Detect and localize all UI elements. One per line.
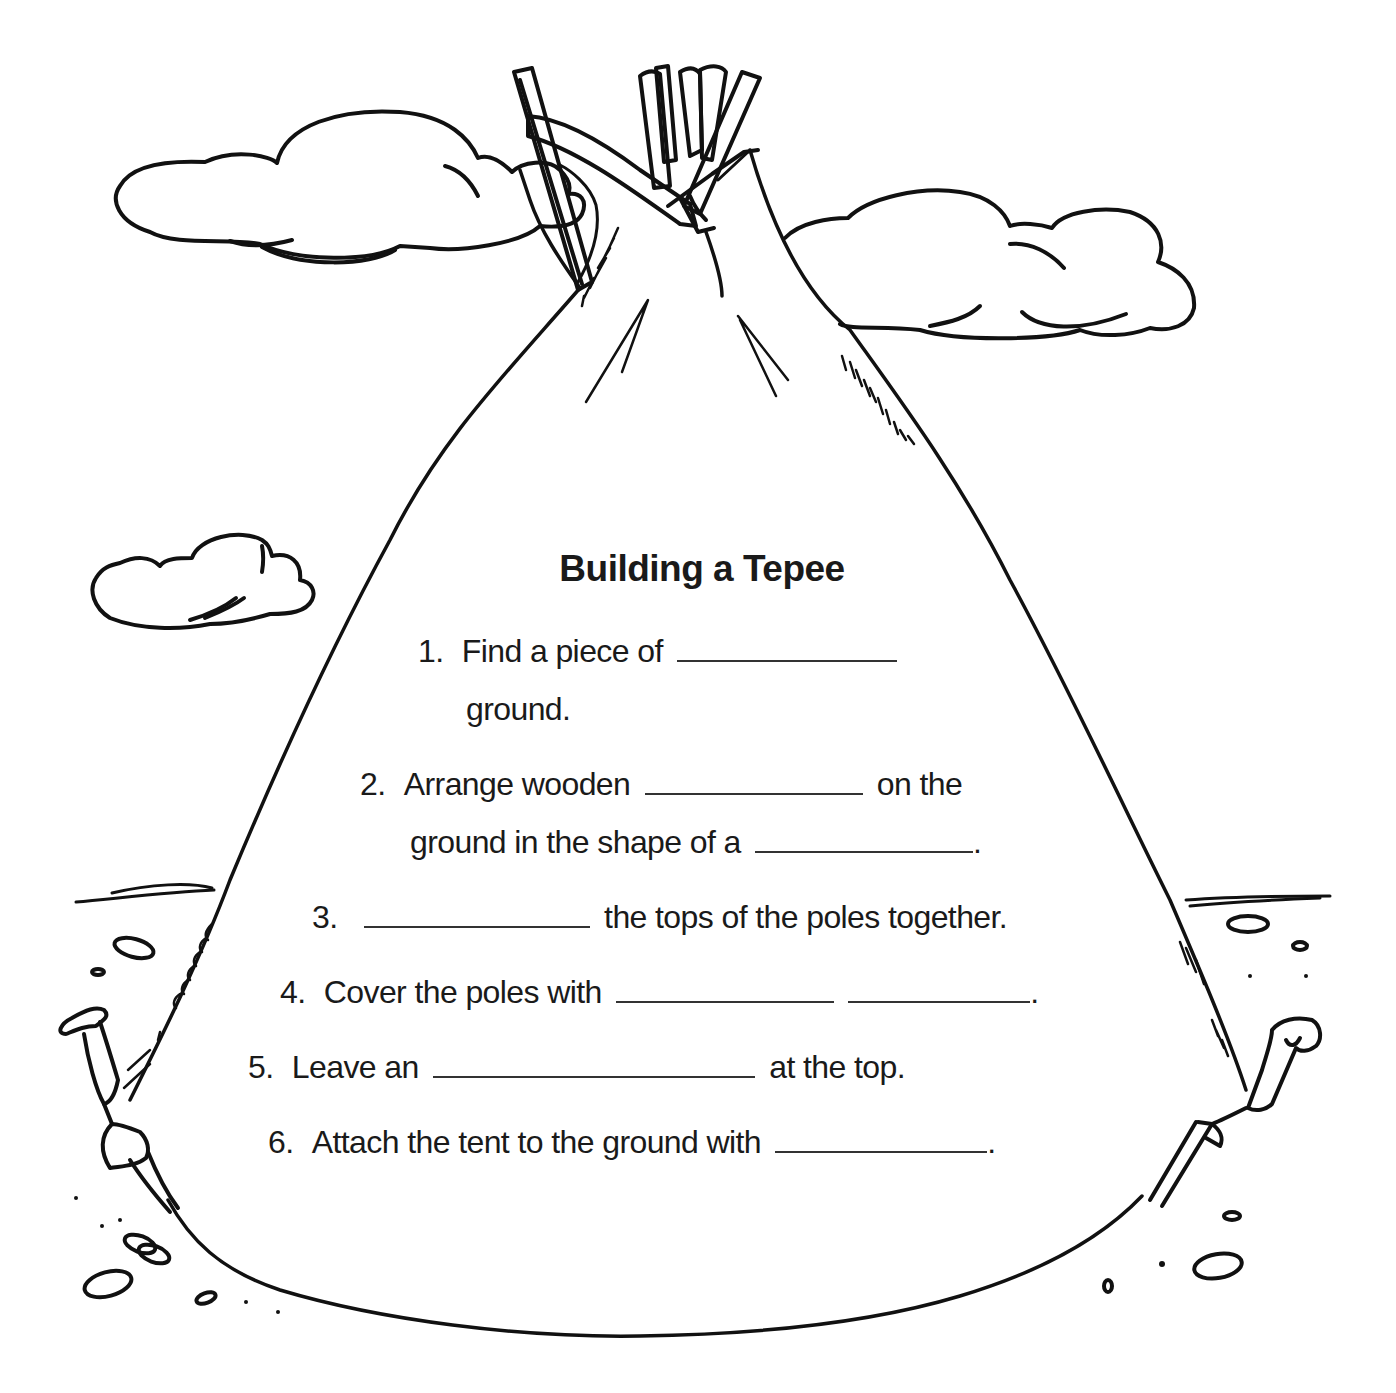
- step-text: the tops of the poles together.: [604, 899, 1007, 935]
- answer-blank-1[interactable]: [677, 632, 897, 662]
- step-text: ground.: [466, 691, 570, 727]
- step-text: at the top.: [769, 1049, 905, 1085]
- step-text: on the: [877, 766, 962, 802]
- step-6-line-1: 6. Attach the tent to the ground with .: [268, 1122, 996, 1162]
- answer-blank-3[interactable]: [364, 898, 590, 928]
- step-text: Find a piece of: [462, 633, 663, 669]
- step-3-line-1: 3. the tops of the poles together.: [312, 897, 1007, 937]
- step-number: 3.: [312, 897, 338, 937]
- step-text: ground in the shape of a: [410, 824, 741, 860]
- step-2-line-1: 2. Arrange wooden on the: [360, 764, 962, 804]
- answer-blank-2b[interactable]: [755, 823, 973, 853]
- step-number: 5.: [248, 1047, 274, 1087]
- step-1-line-1: 1. Find a piece of: [418, 631, 903, 671]
- answer-blank-5[interactable]: [433, 1048, 755, 1078]
- step-number: 4.: [280, 972, 306, 1012]
- answer-blank-2a[interactable]: [645, 765, 863, 795]
- step-2-line-2: ground in the shape of a .: [410, 822, 981, 862]
- step-number: 6.: [268, 1122, 294, 1162]
- step-number: 2.: [360, 764, 386, 804]
- period: .: [987, 1124, 995, 1160]
- step-text: Cover the poles with: [324, 974, 602, 1010]
- step-text: Arrange wooden: [404, 766, 630, 802]
- step-text: Leave an: [292, 1049, 419, 1085]
- period: .: [973, 824, 981, 860]
- step-1-line-2: ground.: [466, 689, 570, 729]
- step-number: 1.: [418, 631, 444, 671]
- answer-blank-4a[interactable]: [616, 973, 834, 1003]
- worksheet-title: Building a Tepee: [0, 548, 1396, 590]
- worksheet: Building a Tepee 1. Find a piece of grou…: [0, 0, 1396, 1393]
- answer-blank-6[interactable]: [775, 1123, 987, 1153]
- period: .: [1030, 974, 1038, 1010]
- step-text: Attach the tent to the ground with: [312, 1124, 761, 1160]
- answer-blank-4b[interactable]: [848, 973, 1030, 1003]
- step-5-line-1: 5. Leave an at the top.: [248, 1047, 905, 1087]
- step-4-line-1: 4. Cover the poles with .: [280, 972, 1039, 1012]
